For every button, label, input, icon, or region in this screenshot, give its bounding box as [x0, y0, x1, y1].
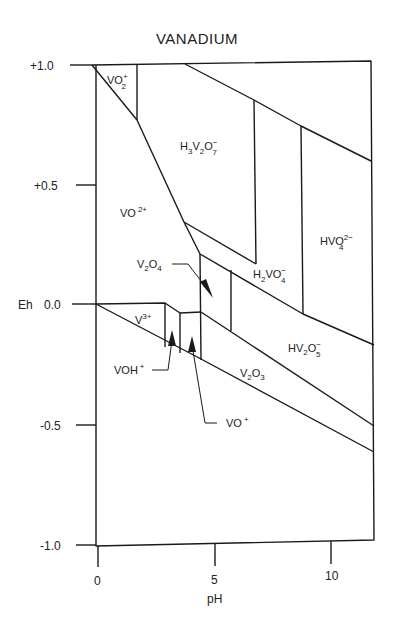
- boundary-v2o3-upper: [201, 312, 374, 426]
- y-tick-label: -1.0: [40, 539, 61, 553]
- species-v2o3: V2O3: [240, 367, 265, 382]
- boundary-hvo4-vertical: [301, 126, 303, 314]
- species-h3v2o7: H3V2O−7: [180, 138, 218, 157]
- species-v2o4: V2O4: [137, 258, 162, 273]
- y-tick-label: 0.0: [44, 298, 61, 312]
- species-hvo4: HVO2−4: [320, 233, 353, 252]
- species-hv2o5: HV2O−5: [288, 340, 321, 359]
- species-vo-plus: VO+: [226, 415, 249, 429]
- species-h2vo4: H2VO−4: [253, 266, 286, 285]
- pourbaix-diagram: +1.0 +0.5 Eh 0.0 -0.5 -1.0 0 5 10 pH VO+…: [0, 0, 394, 636]
- y-tick-label: +0.5: [34, 179, 58, 193]
- arrow-vo: [188, 336, 196, 352]
- y-tick-label: -0.5: [40, 419, 61, 433]
- x-tick-label: 5: [211, 573, 218, 587]
- boundary-v2o4-left: [200, 254, 201, 360]
- arrow-v2o4: [200, 279, 213, 298]
- x-tick-label: 10: [325, 569, 339, 583]
- x-axis-label: pH: [207, 592, 222, 606]
- species-v3plus: V3+: [135, 312, 152, 326]
- boundary-v2o4-upper: [200, 254, 374, 345]
- species-voh-plus: VOH+: [114, 362, 145, 376]
- arrow-voh: [168, 330, 176, 346]
- boundary-vo2-diagonal: [92, 65, 200, 254]
- y-axis-label: Eh: [18, 298, 33, 312]
- leader-v2o4: [172, 264, 208, 290]
- boundary-h2vo4-vertical: [254, 100, 256, 264]
- y-tick-label: +1.0: [30, 59, 54, 73]
- species-vo-2plus: VO2+: [120, 205, 147, 219]
- x-tick-label: 0: [94, 574, 101, 588]
